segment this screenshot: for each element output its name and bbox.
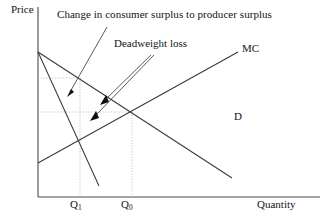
consumer-surplus-annotation: Change in consumer surplus to producer s… xyxy=(57,9,272,20)
y-axis-label: Price xyxy=(11,4,34,15)
tick-q0-sub: 0 xyxy=(129,203,133,212)
deadweight-loss-annotation: Deadweight loss xyxy=(114,38,187,49)
deadweight-leader-line-1 xyxy=(106,55,151,99)
surplus-arrow-icon xyxy=(67,89,74,97)
economics-diagram: Price Quantity Change in consumer surplu… xyxy=(0,0,332,222)
tick-q1-base: Q xyxy=(70,198,78,210)
tick-label-q0: Q0 xyxy=(121,199,133,210)
demand-label: D xyxy=(234,111,242,122)
deadweight-leader-line-2 xyxy=(96,55,154,115)
tick-q1-sub: 1 xyxy=(78,203,82,212)
deadweight-arrow-icon-2 xyxy=(90,111,99,121)
tick-q0-base: Q xyxy=(121,198,129,210)
diagram-canvas xyxy=(0,0,332,222)
surplus-leader-line xyxy=(70,27,107,92)
marginal-cost-curve xyxy=(38,52,238,163)
x-axis-label: Quantity xyxy=(257,199,296,210)
tick-label-q1: Q1 xyxy=(70,199,82,210)
marginal-cost-label: MC xyxy=(242,43,259,54)
